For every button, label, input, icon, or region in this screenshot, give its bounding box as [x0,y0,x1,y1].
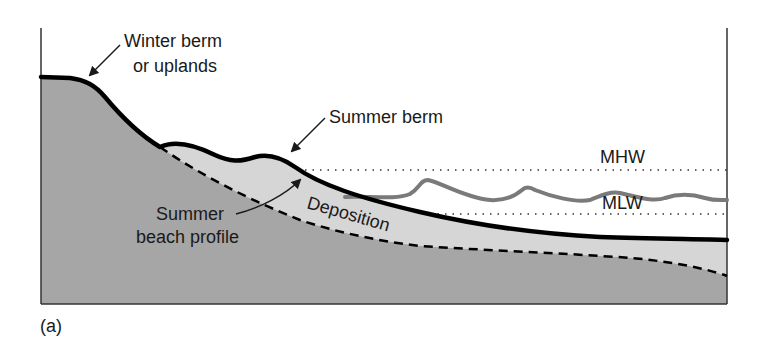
winter-berm-label-line1: Winter berm [124,31,222,51]
summer-berm-label: Summer berm [329,107,443,127]
summer-berm-arrow [292,118,325,151]
wave-line [345,180,727,201]
mhw-label: MHW [600,147,645,167]
summer-beach-label-line1: Summer [156,204,224,224]
mlw-label: MLW [602,193,643,213]
beach-profile-diagram: Winter berm or uplands Summer berm Summe… [0,0,769,341]
winter-berm-label-line2: or uplands [133,56,217,76]
summer-beach-label-line2: beach profile [136,227,239,247]
panel-label: (a) [40,316,62,336]
winter-berm-arrow [90,45,120,75]
